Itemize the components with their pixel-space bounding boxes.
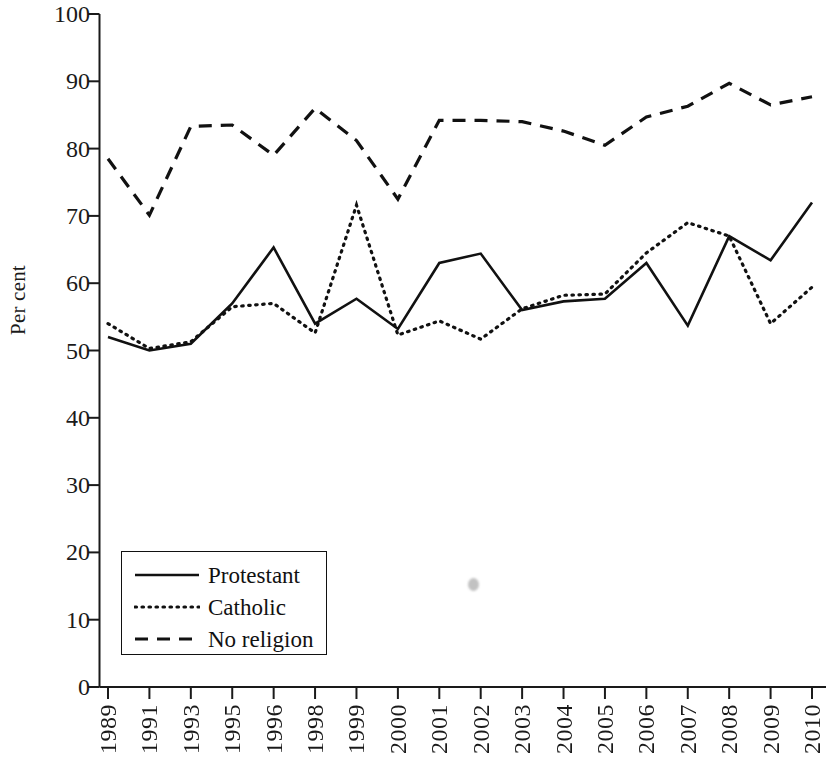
legend-item-catholic: Catholic (122, 590, 326, 624)
line-chart: 0102030405060708090100 19891991199319951… (0, 0, 827, 758)
legend-item-protestant: Protestant (122, 558, 326, 592)
x-tick-label-1991: 1991 (137, 704, 161, 754)
x-tick-label-2007: 2007 (676, 704, 700, 754)
legend-swatch-dotted-icon (134, 597, 200, 617)
x-tick-label-2009: 2009 (759, 704, 783, 754)
x-tick-label-1998: 1998 (303, 704, 327, 754)
x-tick-label-1996: 1996 (262, 704, 286, 754)
y-axis-title: Per cent (6, 240, 31, 360)
x-tick-label-1999: 1999 (344, 704, 368, 754)
legend-swatch-dashed-icon (134, 629, 200, 649)
legend-label: No religion (208, 628, 313, 651)
x-tick-label-2003: 2003 (510, 704, 534, 754)
x-tick-label-2004: 2004 (552, 704, 576, 754)
x-tick-label-1993: 1993 (179, 704, 203, 754)
legend-label: Protestant (208, 564, 300, 587)
x-tick-label-2008: 2008 (717, 704, 741, 754)
legend-label: Catholic (208, 596, 286, 619)
x-tick-label-1995: 1995 (220, 704, 244, 754)
x-tick-label-2005: 2005 (593, 704, 617, 754)
x-tick-label-2006: 2006 (634, 704, 658, 754)
x-tick-label-2001: 2001 (427, 704, 451, 754)
x-tick-label-2010: 2010 (800, 704, 824, 754)
x-tick-label-2000: 2000 (386, 704, 410, 754)
legend-item-no-religion: No religion (122, 622, 326, 656)
x-tick-label-2002: 2002 (469, 704, 493, 754)
page-smudge-artifact (468, 578, 479, 591)
chart-legend: ProtestantCatholicNo religion (121, 551, 327, 655)
x-tick-label-1989: 1989 (96, 704, 120, 754)
legend-swatch-solid-icon (134, 565, 200, 585)
